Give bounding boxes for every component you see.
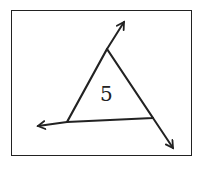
arrow-up-right-icon [107, 22, 124, 49]
center-label: 5 [100, 82, 113, 106]
triangle-diagram: 5 [0, 0, 207, 170]
arrow-down-right-icon [153, 118, 173, 148]
arrow-left-icon [38, 122, 67, 126]
